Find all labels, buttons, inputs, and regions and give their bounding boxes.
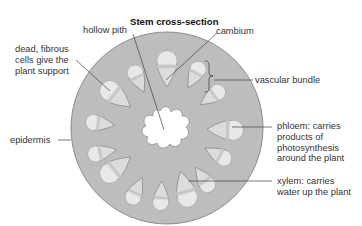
label-line: dead, fibrous bbox=[15, 44, 69, 55]
diagram-title: Stem cross-section bbox=[130, 16, 219, 27]
label-xylem: xylem: carries water up the plant bbox=[277, 176, 351, 198]
label-line: phloem: carries bbox=[277, 121, 344, 132]
label-line: products of bbox=[277, 132, 344, 143]
label-line: around the plant bbox=[277, 153, 344, 164]
label-line: water up the plant bbox=[277, 187, 351, 198]
label-line: xylem: carries bbox=[277, 176, 351, 187]
label-vascular-bundle: vascular bundle bbox=[255, 75, 320, 86]
label-dead-fibrous: dead, fibrous cells give the plant suppo… bbox=[15, 44, 69, 76]
label-cambium: cambium bbox=[216, 26, 254, 37]
label-line: plant support bbox=[15, 66, 69, 77]
label-line: photosynthesis bbox=[277, 143, 344, 154]
label-hollow-pith: hollow pith bbox=[83, 25, 127, 36]
label-phloem: phloem: carries products of photosynthes… bbox=[277, 121, 344, 164]
label-line: cells give the bbox=[15, 55, 69, 66]
label-epidermis: epidermis bbox=[10, 135, 50, 146]
